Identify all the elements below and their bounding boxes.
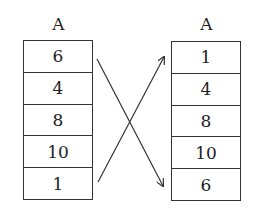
swap-arrows xyxy=(0,0,254,211)
arrow-1-to-first xyxy=(98,57,164,182)
